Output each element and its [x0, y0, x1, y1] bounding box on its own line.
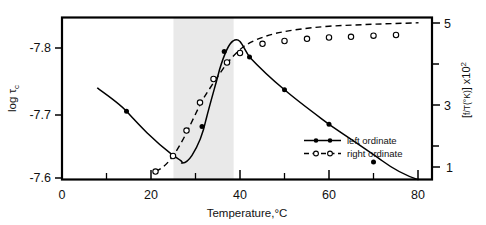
data-point — [211, 76, 216, 81]
y-left-title-log: log — [6, 97, 18, 112]
data-point — [304, 36, 309, 41]
data-point — [371, 160, 376, 165]
x-tick-labels: 0 20 40 60 80 — [59, 188, 425, 202]
x-tick-label: 40 — [233, 188, 247, 202]
y-right-tick-label: 3 — [444, 99, 451, 113]
y-left-tick-label: -7.8 — [29, 41, 51, 55]
y-left-tick-label: -7.6 — [29, 171, 51, 185]
chart-legend: left ordinate right ordinate — [304, 135, 402, 159]
legend-item-right-ordinate[interactable]: right ordinate — [304, 148, 402, 159]
y-left-title-sub: c — [12, 85, 21, 89]
y-right-title-frac: f/T(°K) — [462, 90, 472, 115]
data-point — [124, 109, 129, 114]
x-tick-label: 0 — [59, 188, 66, 202]
y-left-tick-labels: -7.8 -7.7 -7.6 — [29, 41, 51, 185]
x-tick-label: 60 — [322, 188, 336, 202]
legend-label-left-ordinate: left ordinate — [347, 135, 397, 146]
data-point — [197, 100, 202, 105]
svg-text:[f/T(°K)] x102: [f/T(°K)] x102 — [459, 61, 472, 118]
data-point — [260, 41, 265, 46]
x-axis-title: Temperature,°C — [207, 207, 288, 219]
legend-marker-open-circle — [314, 151, 319, 156]
y-right-title-exp: 2 — [459, 61, 468, 66]
data-point — [371, 33, 376, 38]
x-tick-label: 80 — [411, 188, 425, 202]
y-axis-right-ticks — [432, 23, 440, 167]
y-right-title-mult: x10 — [460, 66, 472, 87]
y-left-tick-label: -7.7 — [29, 108, 51, 122]
data-point — [393, 32, 398, 37]
data-point — [224, 60, 229, 65]
data-point — [247, 54, 252, 59]
y-axis-left-title: log τc — [6, 85, 21, 112]
svg-text:log τc: log τc — [6, 85, 21, 112]
shaded-transition-band — [173, 18, 233, 180]
data-point — [282, 87, 287, 92]
y-axis-right-title: [f/T(°K)] x102 — [459, 61, 472, 118]
data-point — [326, 35, 331, 40]
data-point — [184, 128, 189, 133]
x-axis-ticks — [62, 170, 418, 180]
y-right-tick-labels: 5 3 1 — [444, 17, 453, 175]
y-right-tick-label: 1 — [446, 161, 453, 175]
data-point — [327, 122, 332, 127]
x-tick-label: 20 — [144, 188, 158, 202]
data-point — [237, 50, 242, 55]
legend-marker-filled-circle — [314, 138, 319, 143]
y-right-tick-label: 5 — [444, 17, 451, 31]
data-point — [170, 153, 175, 158]
data-point — [282, 38, 287, 43]
data-point — [222, 49, 227, 54]
legend-label-right-ordinate: right ordinate — [347, 148, 402, 159]
legend-marker-open-circle — [328, 151, 333, 156]
data-point — [200, 124, 205, 129]
legend-item-left-ordinate[interactable]: left ordinate — [304, 135, 397, 146]
chart-svg: 0 20 40 60 80 Temperature,°C -7.8 -7.7 -… — [0, 0, 486, 225]
legend-marker-filled-circle — [328, 138, 333, 143]
figure-container: 0 20 40 60 80 Temperature,°C -7.8 -7.7 -… — [0, 0, 486, 225]
data-point — [348, 34, 353, 39]
data-point — [153, 169, 158, 174]
